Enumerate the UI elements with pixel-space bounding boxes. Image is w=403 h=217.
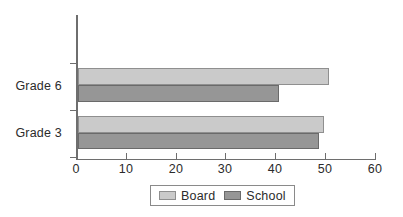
category-label-grade3: Grade 3 xyxy=(15,126,62,140)
legend-entry-board: Board xyxy=(159,189,215,203)
x-tick-label-0: 0 xyxy=(56,162,96,176)
x-axis-tick xyxy=(76,153,77,160)
x-tick-label-50: 50 xyxy=(305,162,345,176)
x-axis-tick xyxy=(225,153,226,160)
x-axis-tick xyxy=(126,153,127,160)
legend-swatch-school-icon xyxy=(224,191,241,200)
chart-legend: Board School xyxy=(150,185,295,206)
y-axis-tick xyxy=(70,110,77,111)
x-tick-label-30: 30 xyxy=(205,162,245,176)
x-axis-tick xyxy=(176,153,177,160)
bar-grade6-school xyxy=(78,85,279,102)
legend-label-board: Board xyxy=(181,189,215,203)
legend-entry-school: School xyxy=(224,189,285,203)
bar-grade3-school xyxy=(78,133,319,149)
y-axis-tick xyxy=(70,63,77,64)
category-label-grade6: Grade 6 xyxy=(15,79,62,93)
x-tick-label-40: 40 xyxy=(255,162,295,176)
x-axis-tick xyxy=(375,153,376,160)
bar-grade3-board xyxy=(78,116,324,133)
bar-chart: Grade 6 Grade 3 0 10 20 30 40 50 60 Boar… xyxy=(0,0,403,217)
x-tick-label-10: 10 xyxy=(106,162,146,176)
legend-swatch-board-icon xyxy=(159,191,176,200)
x-tick-label-20: 20 xyxy=(156,162,196,176)
x-axis-tick xyxy=(325,153,326,160)
bar-grade6-board xyxy=(78,68,329,85)
x-axis-tick xyxy=(275,153,276,160)
legend-label-school: School xyxy=(246,189,285,203)
x-tick-label-60: 60 xyxy=(355,162,395,176)
